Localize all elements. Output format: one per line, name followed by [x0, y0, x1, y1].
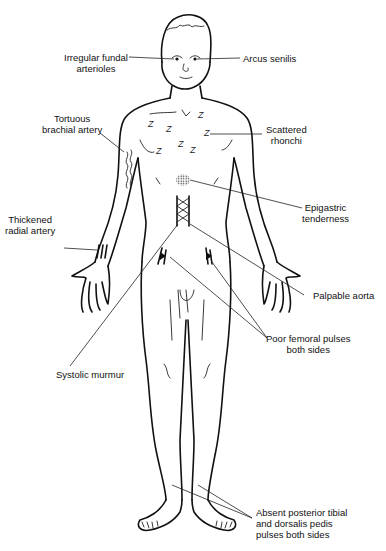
rhonchi-z-mark: Z: [147, 119, 154, 129]
label-line: Palpable aorta: [313, 290, 374, 301]
head: [162, 15, 211, 98]
label-poor-femoral-pulses: Poor femoral pulses both sides: [266, 333, 350, 355]
label-line: Systolic murmur: [56, 369, 124, 380]
label-line: radial artery: [5, 225, 55, 236]
label-line: tenderness: [302, 213, 349, 224]
thickened-radial-artery-marker: [97, 245, 107, 258]
rhonchi-markers: ZZZZZZZ: [147, 110, 210, 156]
label-line: Poor femoral pulses: [266, 333, 350, 344]
rhonchi-z-mark: Z: [197, 110, 204, 120]
label-line: Arcus senilis: [243, 53, 296, 64]
right-eye: [175, 57, 178, 60]
label-line: Scattered: [266, 124, 307, 135]
label-line: and dorsalis pedis: [256, 518, 347, 529]
rhonchi-z-mark: Z: [189, 145, 196, 155]
rhonchi-z-mark: Z: [155, 146, 162, 156]
label-scattered-rhonchi: Scattered rhonchi: [266, 124, 307, 146]
label-palpable-aorta: Palpable aorta: [313, 290, 374, 301]
femoral-pulse-markers: [158, 248, 212, 264]
left-eye: [193, 57, 196, 60]
label-epigastric-tenderness: Epigastric tenderness: [302, 202, 349, 224]
label-irregular-fundal-arterioles: Irregular fundal arterioles: [64, 52, 128, 74]
label-line: brachial artery: [42, 124, 102, 135]
legs: [138, 262, 235, 530]
palpable-aorta-marker: [177, 196, 189, 226]
label-line: rhonchi: [266, 135, 307, 146]
body-figure-drawing: ZZZZZZZ: [0, 0, 386, 551]
rhonchi-z-mark: Z: [177, 139, 184, 149]
label-absent-pedal-pulses: Absent posterior tibial and dorsalis ped…: [256, 507, 347, 540]
tortuous-artery-marker: [126, 150, 132, 188]
clinical-body-diagram: ZZZZZZZ: [0, 0, 386, 551]
label-line: pulses both sides: [256, 529, 347, 540]
label-thickened-radial-artery: Thickened radial artery: [5, 214, 55, 236]
label-line: Thickened: [5, 214, 55, 225]
label-line: Tortuous: [42, 113, 102, 124]
label-line: both sides: [266, 344, 350, 355]
rhonchi-z-mark: Z: [165, 124, 172, 134]
label-tortuous-brachial-artery: Tortuous brachial artery: [42, 113, 102, 135]
label-systolic-murmur: Systolic murmur: [56, 369, 124, 380]
rhonchi-z-mark: Z: [203, 128, 210, 138]
label-line: Irregular fundal: [64, 52, 128, 63]
label-line: Epigastric: [302, 202, 349, 213]
epigastric-tenderness-marker: [176, 174, 190, 186]
label-line: Absent posterior tibial: [256, 507, 347, 518]
label-arcus-senilis: Arcus senilis: [243, 53, 296, 64]
label-line: arterioles: [64, 63, 128, 74]
